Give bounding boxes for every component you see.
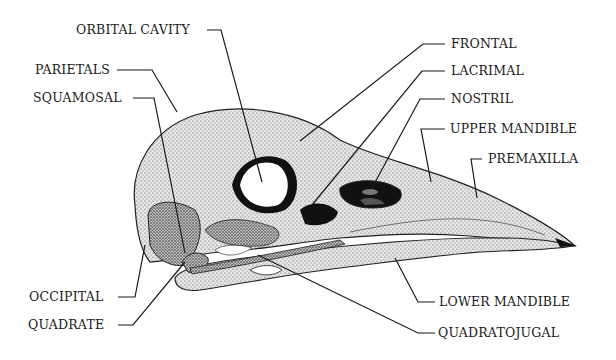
label-quadrate: QUADRATE	[28, 318, 104, 332]
leader-quadrate	[118, 262, 185, 325]
label-lower-mandible: LOWER MANDIBLE	[439, 295, 570, 309]
label-frontal: FRONTAL	[451, 37, 517, 51]
label-nostril: NOSTRIL	[451, 92, 513, 106]
leader-frontal	[300, 44, 445, 141]
leader-lower-mandible	[395, 258, 435, 302]
label-premaxilla: PREMAXILLA	[488, 152, 578, 166]
label-occipital: OCCIPITAL	[29, 290, 103, 304]
label-upper-mandible: UPPER MANDIBLE	[450, 122, 577, 136]
leader-occipital	[118, 245, 145, 297]
label-orbital-cavity: ORBITAL CAVITY	[76, 23, 190, 37]
label-parietals: PARIETALS	[35, 63, 110, 77]
label-squamosal: SQUAMOSAL	[33, 91, 122, 105]
label-quadratojugal: QUADRATOJUGAL	[438, 326, 559, 340]
label-lacrimal: LACRIMAL	[451, 64, 524, 78]
leader-parietals	[117, 70, 177, 112]
skull-drawing	[134, 109, 577, 291]
